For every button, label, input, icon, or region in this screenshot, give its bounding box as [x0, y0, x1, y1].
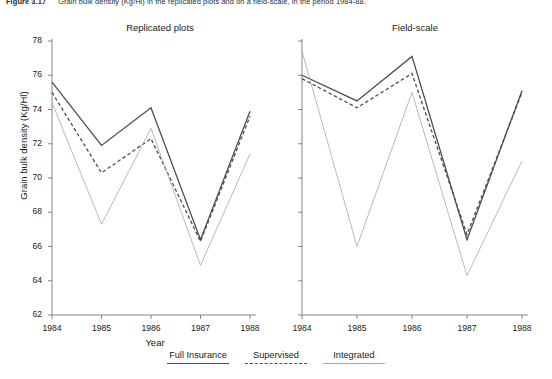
series-line-full-insurance-panel-1 — [302, 56, 522, 239]
series-line-supervised-panel-1 — [302, 74, 522, 235]
y-tick-label-62: 62 — [20, 309, 42, 319]
legend-entry-integrated[interactable]: Integrated — [323, 350, 385, 365]
series-line-supervised-panel-0 — [52, 92, 250, 241]
legend-entry-supervised[interactable]: Supervised — [245, 350, 307, 365]
x-tick-label-1986-panel-1: 1986 — [392, 323, 432, 333]
x-tick-label-1988-panel-0: 1988 — [230, 323, 270, 333]
x-tick-label-1987-panel-0: 1987 — [181, 323, 221, 333]
y-tick-label-70: 70 — [20, 172, 42, 182]
chart-legend: Full InsuranceSupervisedIntegrated — [0, 350, 552, 365]
series-line-full-insurance-panel-0 — [52, 82, 250, 240]
x-tick-label-1985-panel-0: 1985 — [82, 323, 122, 333]
series-line-integrated-panel-1 — [302, 51, 522, 275]
y-tick-label-76: 76 — [20, 69, 42, 79]
x-tick-label-1988-panel-1: 1988 — [502, 323, 542, 333]
x-tick-label-1984-panel-1: 1984 — [282, 323, 322, 333]
y-tick-label-68: 68 — [20, 206, 42, 216]
x-tick-label-1985-panel-1: 1985 — [337, 323, 377, 333]
y-tick-label-74: 74 — [20, 104, 42, 114]
legend-label-2: Integrated — [333, 350, 374, 360]
axis-panel-1 — [298, 39, 528, 319]
y-tick-label-78: 78 — [20, 35, 42, 45]
x-tick-label-1986-panel-0: 1986 — [131, 323, 171, 333]
y-tick-label-72: 72 — [20, 138, 42, 148]
x-tick-label-1984-panel-0: 1984 — [32, 323, 72, 333]
legend-swatch-dashed — [245, 362, 307, 365]
y-tick-label-64: 64 — [20, 275, 42, 285]
legend-swatch-solid — [167, 362, 229, 365]
legend-entry-full-insurance[interactable]: Full Insurance — [167, 350, 229, 365]
series-line-integrated-panel-0 — [52, 103, 250, 266]
legend-label-1: Supervised — [253, 350, 299, 360]
y-tick-label-66: 66 — [20, 241, 42, 251]
legend-label-0: Full Insurance — [169, 350, 227, 360]
axis-panel-0 — [48, 39, 256, 319]
legend-swatch-thin — [323, 362, 385, 365]
x-tick-label-1987-panel-1: 1987 — [447, 323, 487, 333]
